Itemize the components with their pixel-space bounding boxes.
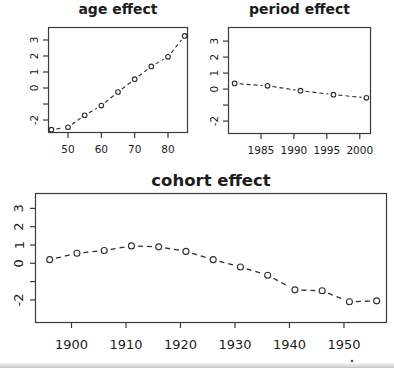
x-tick-label: 80 xyxy=(161,143,174,155)
data-point xyxy=(156,244,162,250)
x-tick-label: 70 xyxy=(128,143,141,155)
y-tick-label: -2 xyxy=(28,115,40,125)
y-tick-label: 2 xyxy=(208,54,220,61)
series-segment xyxy=(165,248,179,250)
y-tick-label: -2 xyxy=(12,293,27,306)
y-tick-label: 1 xyxy=(12,241,27,249)
data-point xyxy=(364,96,369,101)
series-segment xyxy=(305,91,328,94)
data-point xyxy=(99,103,104,108)
axis-box xyxy=(49,28,188,133)
age-effect-plot: age effect 50607080-20123 xyxy=(28,1,188,155)
y-tick-label: 3 xyxy=(12,204,27,212)
y-tick-label: 0 xyxy=(208,86,220,93)
data-point xyxy=(128,243,134,249)
x-tick-label: 1950 xyxy=(327,337,360,352)
data-point xyxy=(132,77,137,82)
data-point xyxy=(49,127,54,132)
x-tick-label: 1900 xyxy=(55,337,88,352)
y-tick-label: 0 xyxy=(28,85,40,92)
axis-box xyxy=(229,28,371,134)
series-segment xyxy=(83,251,97,252)
stray-mark xyxy=(351,360,354,363)
y-tick-label: 1 xyxy=(28,69,40,76)
y-tick-label: 3 xyxy=(208,38,220,45)
data-point xyxy=(47,257,53,263)
period-effect-plot: period effect 1985199019952000-20123 xyxy=(208,1,373,156)
cohort-effect-plot: cohort effect 190019101920193019401950-2… xyxy=(12,171,387,352)
series-segment xyxy=(219,261,234,265)
series-segment xyxy=(89,108,97,113)
series-segment xyxy=(72,118,81,124)
y-tick-label: 2 xyxy=(28,53,40,60)
x-tick-label: 1990 xyxy=(281,144,308,156)
data-point xyxy=(232,81,237,86)
series-segment xyxy=(156,59,164,64)
data-point xyxy=(74,250,80,256)
data-point xyxy=(82,113,87,118)
series-segment xyxy=(247,269,262,273)
y-tick-label: 2 xyxy=(12,223,27,231)
data-point xyxy=(265,84,270,89)
y-tick-label: -2 xyxy=(208,116,220,126)
series-segment xyxy=(240,84,263,86)
y-tick-label: 0 xyxy=(12,259,27,267)
series-segment xyxy=(111,247,125,249)
data-point xyxy=(265,272,271,278)
age-plot-title: age effect xyxy=(78,1,157,17)
data-point xyxy=(210,257,216,263)
data-point xyxy=(101,247,107,253)
series-segment xyxy=(192,253,207,257)
data-point xyxy=(319,288,325,294)
y-tick-label: 1 xyxy=(208,70,220,77)
x-tick-label: 1940 xyxy=(273,337,306,352)
data-point xyxy=(331,92,336,97)
series-segment xyxy=(56,128,63,129)
plots-canvas: age effect 50607080-20123 period effect … xyxy=(0,0,394,368)
data-point xyxy=(66,125,71,130)
x-tick-label: 1930 xyxy=(218,337,251,352)
data-point xyxy=(166,54,171,59)
series-segment xyxy=(338,95,361,97)
r-plots-window: age effect 50607080-20123 period effect … xyxy=(0,0,394,368)
data-point xyxy=(237,264,243,270)
data-point xyxy=(346,299,352,305)
series-segment xyxy=(171,40,181,53)
x-tick-label: 50 xyxy=(61,143,74,155)
x-tick-label: 1920 xyxy=(164,337,197,352)
x-tick-label: 1985 xyxy=(248,144,275,156)
data-point xyxy=(292,287,298,293)
series-segment xyxy=(105,95,114,102)
x-tick-label: 2000 xyxy=(346,144,373,156)
data-point xyxy=(149,64,154,69)
x-tick-label: 60 xyxy=(95,143,108,155)
data-point xyxy=(182,34,187,39)
series-segment xyxy=(122,82,131,89)
cohort-plot-title: cohort effect xyxy=(151,171,270,190)
data-point xyxy=(374,298,380,304)
series-segment xyxy=(139,69,148,76)
series-segment xyxy=(273,278,289,286)
x-tick-label: 1995 xyxy=(313,144,340,156)
series-segment xyxy=(328,293,343,299)
y-tick-label: 3 xyxy=(28,37,40,44)
data-point xyxy=(183,248,189,254)
data-point xyxy=(116,90,121,95)
series-segment xyxy=(272,87,295,90)
x-tick-label: 1910 xyxy=(109,337,142,352)
series-segment xyxy=(56,255,71,258)
data-point xyxy=(298,88,303,93)
period-plot-title: period effect xyxy=(249,1,350,17)
